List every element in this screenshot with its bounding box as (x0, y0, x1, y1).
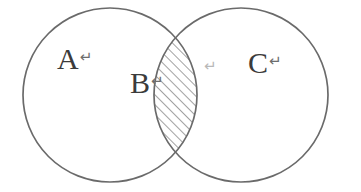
return-arrow-icon-a: ↵ (80, 48, 93, 66)
venn-diagram-svg (0, 0, 361, 192)
label-a: A↵ (57, 44, 92, 74)
label-c: C↵ (248, 48, 282, 78)
label-b: B↵ (130, 68, 164, 98)
label-a-text: A (57, 42, 79, 75)
label-b-text: B (130, 66, 150, 99)
label-c-text: C (248, 46, 268, 79)
return-arrow-icon-c: ↵ (269, 52, 282, 70)
return-arrow-icon-intersection: ↵ (204, 57, 217, 75)
label-intersection-return: ↵ (203, 58, 217, 74)
lens-hatch-fill (154, 8, 328, 182)
diagram-canvas: A↵ B↵ ↵ C↵ (0, 0, 361, 192)
return-arrow-icon-b: ↵ (151, 72, 164, 90)
